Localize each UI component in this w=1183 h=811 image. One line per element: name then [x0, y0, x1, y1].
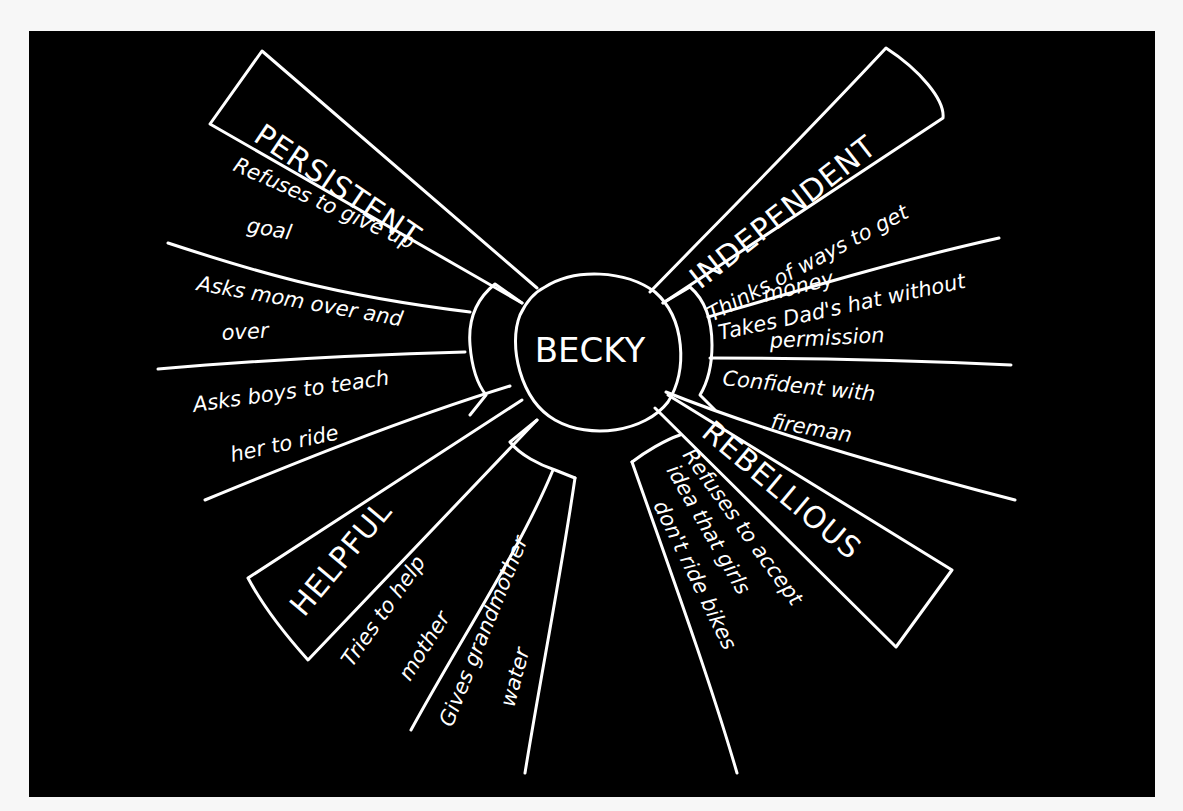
trait-branch-persistent: PERSISTENT Refuses to give up goal Asks …	[158, 51, 537, 500]
character-web-diagram: BECKY PERSISTENT Refuses to give up goal…	[29, 31, 1155, 797]
example-persistent-2-line-2: over	[221, 319, 270, 345]
example-independent-2-line-2: permission	[768, 323, 885, 353]
example-persistent-3-line-1: Asks boys to teach	[189, 366, 390, 418]
example-helpful-1-line-2: mother	[394, 606, 456, 685]
example-persistent-1-line-2: goal	[245, 213, 294, 244]
example-persistent-3-line-2: her to ride	[228, 421, 341, 467]
example-helpful-2-line-2: water	[496, 644, 535, 709]
trait-branch-helpful: HELPFUL Tries to help mother Gives grand…	[248, 400, 575, 773]
center-label: BECKY	[535, 330, 646, 370]
example-independent-3-line-1: Confident with	[721, 366, 876, 406]
chalkboard-panel: BECKY PERSISTENT Refuses to give up goal…	[29, 31, 1155, 797]
trait-branch-rebellious: REBELLIOUS Refuses to accept idea that g…	[632, 395, 952, 773]
